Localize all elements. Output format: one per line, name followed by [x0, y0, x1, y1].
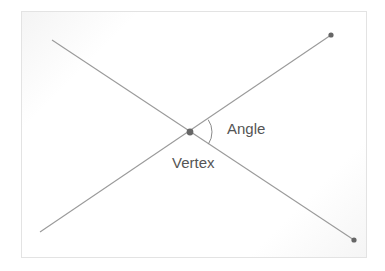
vertex-dot — [187, 129, 194, 136]
line-upper-left-to-lower-right — [52, 40, 354, 240]
line-lower-left-to-upper-right — [40, 35, 331, 232]
angle-arc — [208, 120, 212, 144]
angle-label: Angle — [227, 120, 265, 137]
endpoint-dot-upper-right — [328, 32, 333, 37]
angle-diagram — [0, 0, 385, 271]
endpoint-dot-lower-right — [351, 237, 356, 242]
vertex-label: Vertex — [172, 154, 215, 171]
